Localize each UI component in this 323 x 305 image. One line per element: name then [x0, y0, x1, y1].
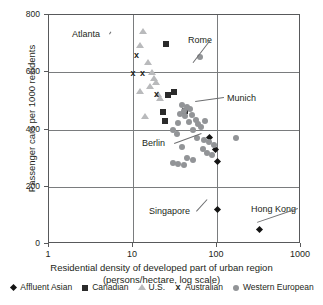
data-point-canadian-2: [165, 92, 171, 98]
legend-symbol-x-icon: x: [174, 284, 182, 292]
x-tick-mark-10: [132, 243, 133, 247]
data-point-western-european-28: [175, 161, 181, 167]
data-point-australian-2: x: [138, 69, 147, 78]
data-point-u-s--10: [141, 113, 149, 119]
gridline-y-200: [49, 187, 299, 188]
data-point-western-european-15: [174, 131, 180, 137]
data-point-western-european-12: [198, 124, 204, 130]
annotation-label-atlanta: Atlanta: [72, 29, 100, 39]
data-point-u-s--0: [139, 28, 147, 34]
data-point-u-s--1: [136, 42, 144, 48]
x-axis-title-line1: Residential density of developed part of…: [20, 262, 303, 274]
y-tick-label-0: 0: [0, 239, 40, 248]
scatter-chart-figure: Passenger cars per 1000 residents xxxx A…: [0, 0, 323, 305]
data-point-u-s--2: [144, 59, 152, 65]
y-tick-label-800: 800: [0, 10, 40, 19]
legend-symbol-circle-icon: [232, 284, 240, 292]
leader-line-singapore: [196, 199, 208, 212]
legend-item-canadian[interactable]: Canadian: [81, 283, 128, 292]
legend-item-western-european[interactable]: Western European: [232, 283, 314, 292]
x-tick-mark-1000: [300, 243, 301, 247]
gridline-x-10: [133, 15, 134, 242]
legend-label: Canadian: [92, 283, 128, 292]
leader-line-atlanta: [109, 31, 112, 34]
legend-label: Affluent Asian: [20, 283, 72, 292]
data-point-u-s--6: [146, 83, 154, 89]
x-tick-mark-100: [216, 243, 217, 247]
x-tick-label-1000: 1000: [280, 250, 320, 259]
legend-label: Australian: [185, 283, 223, 292]
chart-legend: Affluent AsianCanadianU.S.xAustralianWes…: [0, 283, 323, 292]
data-point-canadian-0: [163, 41, 169, 47]
data-point-western-european-6: [182, 113, 188, 119]
legend-symbol-square-icon: [81, 284, 89, 292]
data-point-western-european-25: [184, 155, 190, 161]
x-tick-label-10: 10: [112, 250, 152, 259]
annotation-label-singapore: Singapore: [149, 206, 190, 216]
gridline-y-600: [49, 72, 299, 73]
legend-label: Western European: [243, 283, 314, 292]
leader-line-munich: [195, 97, 224, 102]
y-tick-label-600: 600: [0, 67, 40, 76]
data-point-affluent-asian-3: [213, 206, 220, 213]
x-tick-label-100: 100: [196, 250, 236, 259]
x-tick-mark-1: [48, 243, 49, 247]
data-point-affluent-asian-4: [256, 226, 263, 233]
legend-item-affluent-asian[interactable]: Affluent Asian: [9, 283, 72, 292]
y-tick-mark-200: [44, 186, 48, 187]
data-point-western-european-26: [190, 157, 196, 163]
data-point-canadian-3: [160, 109, 166, 115]
data-point-canadian-1: [171, 89, 177, 95]
data-point-western-european-29: [181, 162, 187, 168]
legend-symbol-triangle-icon: [138, 284, 146, 292]
legend-label: U.S.: [149, 283, 166, 292]
data-point-western-european-17: [233, 135, 239, 141]
data-point-australian-0: x: [132, 51, 141, 60]
data-point-western-european-16: [202, 118, 208, 124]
data-point-australian-3: x: [152, 90, 161, 99]
annotation-label-munich: Munich: [227, 93, 256, 103]
data-point-u-s--7: [136, 88, 144, 94]
data-point-western-european-21: [179, 144, 185, 150]
y-tick-mark-400: [44, 129, 48, 130]
annotation-label-berlin: Berlin: [142, 138, 165, 148]
data-point-western-european-9: [186, 119, 192, 125]
data-point-canadian-4: [162, 118, 168, 124]
y-axis-title-wrapper: Passenger cars per 1000 residents: [0, 0, 1, 1]
y-tick-label-400: 400: [0, 125, 40, 134]
data-point-western-european-24: [209, 152, 215, 158]
data-point-western-european-10: [175, 120, 181, 126]
legend-symbol-diamond-icon: [9, 284, 17, 292]
y-tick-mark-600: [44, 71, 48, 72]
legend-item-u-s-[interactable]: U.S.: [138, 283, 166, 292]
y-tick-label-200: 200: [0, 182, 40, 191]
legend-item-australian[interactable]: xAustralian: [174, 283, 223, 292]
y-tick-mark-800: [44, 14, 48, 15]
data-point-affluent-asian-2: [213, 158, 220, 165]
annotation-label-hong-kong: Hong Kong: [251, 204, 296, 214]
data-point-australian-1: x: [129, 69, 138, 78]
plot-area: xxxx AtlantaRomeMunichBerlinSingaporeHon…: [48, 14, 300, 243]
data-point-western-european-13: [190, 127, 196, 133]
x-tick-label-1: 1: [28, 250, 68, 259]
